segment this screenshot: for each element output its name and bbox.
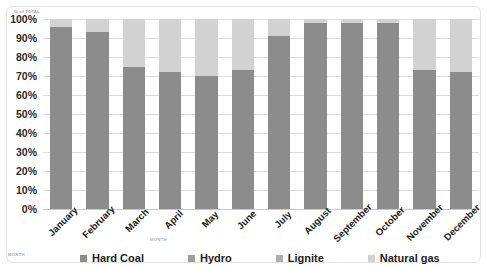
bar-segment[interactable] [50, 27, 73, 209]
bar-segment[interactable] [268, 19, 291, 36]
legend-swatch-icon [80, 255, 87, 262]
legend-item[interactable]: Natural gas [368, 253, 440, 264]
bar-slot [261, 19, 297, 209]
bar-segment[interactable] [450, 72, 473, 209]
stacked-bar[interactable] [86, 19, 109, 209]
x-tick-label: August [303, 206, 333, 236]
bar-slot [116, 19, 152, 209]
y-tick-label: 0% [22, 204, 37, 215]
bar-segment[interactable] [341, 23, 364, 209]
x-label-slot: August [297, 209, 333, 253]
bars-layer [43, 19, 479, 209]
x-tick-label: June [235, 208, 258, 231]
bar-slot [188, 19, 224, 209]
x-label-slot: January [43, 209, 79, 253]
stacked-bar[interactable] [159, 19, 182, 209]
y-tick-label: 50% [16, 109, 37, 120]
legend-swatch-icon [188, 255, 195, 262]
bar-segment[interactable] [86, 19, 109, 32]
y-tick-label: 90% [16, 33, 37, 44]
bar-slot [152, 19, 188, 209]
x-tick-label: December [442, 203, 482, 243]
stacked-bar[interactable] [377, 19, 400, 209]
bar-slot [225, 19, 261, 209]
x-label-slot: July [261, 209, 297, 253]
x-axis-labels: JanuaryFebruaryMarchAprilMayJuneJulyAugu… [43, 209, 479, 253]
y-tick-label: 70% [16, 71, 37, 82]
x-tick-label: January [47, 205, 80, 238]
stacked-bar[interactable] [123, 19, 146, 209]
bar-slot [334, 19, 370, 209]
stacked-bar[interactable] [304, 19, 327, 209]
bar-segment[interactable] [195, 76, 218, 209]
bar-slot [43, 19, 79, 209]
y-tick-label: 60% [16, 90, 37, 101]
x-label-slot: October [370, 209, 406, 253]
bar-segment[interactable] [232, 70, 255, 209]
legend-label: Hydro [200, 253, 232, 264]
plot-area [43, 19, 479, 209]
bar-segment[interactable] [159, 19, 182, 72]
stacked-bar[interactable] [413, 19, 436, 209]
legend-item[interactable]: Lignite [276, 253, 324, 264]
bar-segment[interactable] [50, 19, 73, 27]
legend-item[interactable]: Hydro [188, 253, 232, 264]
y-tick-label: 10% [16, 185, 37, 196]
legend-swatch-icon [368, 255, 375, 262]
bar-segment[interactable] [413, 19, 436, 70]
bar-slot [406, 19, 442, 209]
bar-segment[interactable] [123, 19, 146, 67]
stacked-bar[interactable] [341, 19, 364, 209]
bar-segment[interactable] [450, 19, 473, 72]
x-tick-label: March [123, 207, 150, 234]
legend-label: Hard Coal [92, 253, 144, 264]
legend-swatch-icon [276, 255, 283, 262]
x-tick-label: April [163, 209, 185, 231]
bar-segment[interactable] [123, 67, 146, 210]
bar-segment[interactable] [86, 32, 109, 209]
legend-label: Natural gas [380, 253, 440, 264]
x-axis-corner-title: MONTH [8, 252, 25, 257]
bar-segment[interactable] [195, 19, 218, 76]
stacked-bar[interactable] [195, 19, 218, 209]
x-label-slot: November [406, 209, 442, 253]
bar-segment[interactable] [268, 36, 291, 209]
y-tick-label: 30% [16, 147, 37, 158]
x-tick-label: February [81, 204, 117, 240]
x-label-slot: September [334, 209, 370, 253]
x-axis-title: MONTH [150, 237, 167, 242]
chart-legend: Hard CoalHydroLigniteNatural gas [80, 250, 484, 266]
x-tick-label: September [331, 202, 373, 244]
bar-slot [370, 19, 406, 209]
y-tick-label: 100% [10, 14, 37, 25]
bar-slot [79, 19, 115, 209]
stacked-bar[interactable] [50, 19, 73, 209]
x-label-slot: December [443, 209, 479, 253]
legend-label: Lignite [288, 253, 324, 264]
bar-slot [297, 19, 333, 209]
x-tick-label: October [374, 205, 407, 238]
x-label-slot: March [116, 209, 152, 253]
stacked-bar[interactable] [232, 19, 255, 209]
stacked-bar[interactable] [450, 19, 473, 209]
bar-slot [443, 19, 479, 209]
y-tick-label: 20% [16, 166, 37, 177]
y-tick-label: 40% [16, 128, 37, 139]
legend-item[interactable]: Hard Coal [80, 253, 144, 264]
x-label-slot: February [79, 209, 115, 253]
bar-segment[interactable] [377, 23, 400, 209]
x-tick-label: November [405, 203, 445, 243]
stacked-bar[interactable] [268, 19, 291, 209]
bar-segment[interactable] [413, 70, 436, 209]
x-label-slot: June [225, 209, 261, 253]
y-axis-ticks: 100%90%80%70%60%50%40%30%20%10%0% [0, 19, 40, 209]
bar-segment[interactable] [232, 19, 255, 70]
x-tick-label: May [201, 209, 221, 229]
x-label-slot: May [188, 209, 224, 253]
stacked-bar-chart: % of TOTAL 100%90%80%70%60%50%40%30%20%1… [0, 0, 487, 269]
bar-segment[interactable] [159, 72, 182, 209]
x-tick-label: July [273, 209, 293, 229]
x-label-slot: April [152, 209, 188, 253]
y-tick-label: 80% [16, 52, 37, 63]
bar-segment[interactable] [304, 23, 327, 209]
